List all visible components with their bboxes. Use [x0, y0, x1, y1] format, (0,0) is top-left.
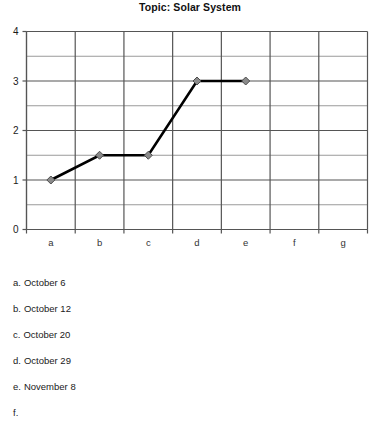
x-tick-label: b	[97, 237, 102, 248]
legend-item: d.October 29	[13, 355, 353, 381]
legend-item-key: b.	[13, 303, 21, 314]
y-tick-label: 3	[13, 76, 19, 87]
line-chart: 01234 abcdefg	[0, 0, 380, 265]
legend-item-key: c.	[13, 329, 20, 340]
y-tick-label: 0	[13, 224, 19, 235]
x-tick-label: d	[194, 237, 199, 248]
legend-item-key: a.	[13, 277, 21, 288]
legend-list: a.October 6b.October 12c.October 20d.Oct…	[13, 277, 353, 433]
major-gridlines-group	[27, 32, 368, 230]
x-tick-label: f	[293, 237, 296, 248]
x-axis-tick-labels: abcdefg	[48, 237, 346, 248]
x-tick-label: g	[340, 237, 345, 248]
legend-item-value: October 6	[24, 277, 66, 288]
y-tick-label: 4	[13, 26, 19, 37]
x-tick-label: e	[243, 237, 248, 248]
legend-item-value: October 12	[24, 303, 71, 314]
legend-item: f.	[13, 407, 353, 433]
x-tick-label: a	[48, 237, 54, 248]
legend-item-value: October 29	[24, 355, 71, 366]
legend-item-key: d.	[13, 355, 21, 366]
chart-canvas: 01234 abcdefg	[0, 0, 380, 265]
legend-item-value: November 8	[24, 381, 76, 392]
legend-item: c.October 20	[13, 329, 353, 355]
legend-item-key: e.	[13, 381, 21, 392]
legend-item: e.November 8	[13, 381, 353, 407]
data-point-marker	[242, 77, 250, 85]
y-axis-tick-labels: 01234	[13, 26, 19, 235]
y-tick-marks-group	[23, 32, 368, 234]
x-tick-label: c	[146, 237, 151, 248]
y-tick-label: 1	[13, 175, 19, 186]
y-tick-label: 2	[13, 125, 19, 136]
legend-item-value: October 20	[23, 329, 70, 340]
legend-item: b.October 12	[13, 303, 353, 329]
legend-item-key: f.	[13, 407, 18, 418]
legend-item: a.October 6	[13, 277, 353, 303]
